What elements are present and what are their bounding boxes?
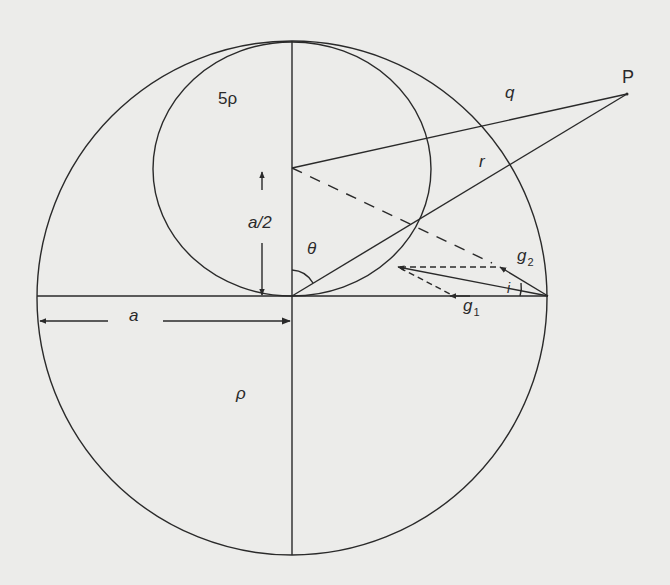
figure-canvas: 5ρ ρ P q r θ a/2 a g1 g2 i <box>0 0 670 585</box>
resultant-arrow <box>398 267 548 296</box>
outer-density-label: ρ <box>236 385 246 402</box>
point-p-label: P <box>622 68 634 86</box>
r-line <box>292 94 627 296</box>
angle-i-arc <box>520 283 521 296</box>
g1-subscript: 1 <box>473 306 479 318</box>
r-label: r <box>479 153 485 170</box>
theta-label: θ <box>307 240 316 257</box>
inner-density-label: 5ρ <box>218 90 237 107</box>
angle-theta-arc <box>292 270 313 283</box>
half-radius-label: a/2 <box>248 214 272 231</box>
point-p-dot <box>626 93 629 96</box>
dashed-center-line <box>292 168 492 263</box>
g1-label: g1 <box>463 297 480 314</box>
g2-base: g <box>517 246 526 265</box>
geometry-svg <box>0 0 670 585</box>
g1-base: g <box>463 296 472 315</box>
angle-i-label: i <box>507 281 510 295</box>
q-label: q <box>505 84 514 101</box>
g2-label: g2 <box>517 247 534 264</box>
g2-subscript: 2 <box>527 256 533 268</box>
radius-label: a <box>129 307 138 324</box>
